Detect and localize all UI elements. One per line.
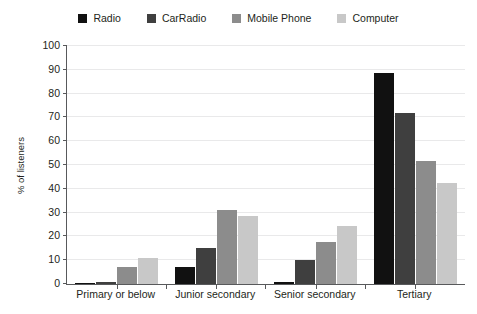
bar [196,248,216,284]
bar [337,226,357,284]
bar-group [266,46,366,284]
x-axis-label: Junior secondary [166,288,266,300]
bar [117,267,137,284]
bar [138,258,158,284]
y-tick-label: 50 [48,158,60,170]
plot-area: 1009080706050403020100 [66,46,465,285]
x-axis-labels: Primary or belowJunior secondarySenior s… [66,288,464,300]
bar-group [67,46,167,284]
x-axis-label: Senior secondary [265,288,365,300]
y-tick-label: 60 [48,134,60,146]
y-axis-title-label: % of listeners [16,136,27,193]
plot-wrapper: % of listeners 1009080706050403020100 Pr… [0,0,477,314]
y-tick-label: 0 [54,277,60,289]
y-tick-label: 100 [42,39,60,51]
bar [295,260,315,284]
bar [175,267,195,284]
bar [395,113,415,284]
x-axis-label: Primary or below [66,288,166,300]
y-tick-label: 90 [48,63,60,75]
y-tick-label: 10 [48,253,60,265]
bar [238,216,258,284]
y-tick-label: 80 [48,87,60,99]
bar [416,161,436,284]
x-axis-label: Tertiary [365,288,465,300]
bar [374,73,394,284]
bar [217,210,237,284]
bar-chart: Radio CarRadio Mobile Phone Computer % o… [0,0,477,314]
y-tick-label: 20 [48,229,60,241]
y-tick-label: 70 [48,110,60,122]
bar [274,282,294,284]
bar-groups [67,46,465,284]
bar-group [366,46,466,284]
bar [316,242,336,284]
bar [437,183,457,284]
y-axis-title: % of listeners [14,46,28,284]
y-tick-label: 40 [48,182,60,194]
bar [75,283,95,284]
bar [96,282,116,284]
y-tick-label: 30 [48,206,60,218]
bar-group [167,46,267,284]
